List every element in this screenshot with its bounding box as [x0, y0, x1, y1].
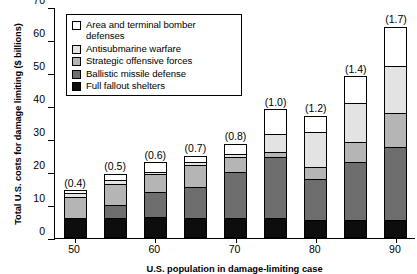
bar-segment: [64, 218, 87, 238]
bar-column[interactable]: (0.4): [64, 190, 87, 238]
x-tick-label: 60: [148, 244, 160, 255]
bar-segment: [184, 156, 207, 163]
bar-value-label: (1.7): [385, 14, 407, 25]
chart-legend: Area and terminal bomber defensesAntisub…: [66, 14, 242, 96]
bar-segment: [144, 174, 167, 192]
bar-segment: [384, 147, 407, 220]
bar-segment: [144, 217, 167, 238]
bar-segment: [184, 187, 207, 218]
bar-column[interactable]: (1.4): [344, 76, 367, 238]
legend-swatch-icon: [72, 70, 81, 79]
legend-item[interactable]: Strategic offensive forces: [72, 55, 236, 66]
bar-segment: [224, 144, 247, 154]
bar-value-label: (0.7): [185, 143, 207, 154]
legend-item-label: Area and terminal bomber defenses: [86, 19, 236, 42]
bar-segment: [224, 172, 247, 218]
bar-value-label: (0.8): [225, 131, 247, 142]
y-tick: [48, 206, 55, 207]
legend-item-label: Full fallout shelters: [86, 80, 165, 91]
bar-value-label: (1.0): [265, 97, 287, 108]
legend-item[interactable]: Ballistic missile defense: [72, 68, 236, 79]
y-tick: [48, 74, 55, 75]
bar-segment: [104, 184, 127, 205]
bar-segment: [264, 157, 287, 218]
y-tick: [48, 173, 55, 174]
y-tick-label: 50: [33, 61, 45, 72]
bar-column[interactable]: (1.2): [304, 116, 327, 238]
x-tick-label: 70: [229, 244, 241, 255]
bar-segment: [144, 192, 167, 217]
legend-item[interactable]: Full fallout shelters: [72, 80, 236, 91]
y-tick-label: 0: [39, 226, 45, 237]
x-tick-label: 90: [389, 244, 401, 255]
bar-segment: [304, 220, 327, 238]
bar-segment: [384, 66, 407, 112]
y-tick: [48, 239, 55, 240]
bar-segment: [344, 220, 367, 238]
bar-segment: [304, 179, 327, 220]
bar-segment: [304, 132, 327, 167]
bar-segment: [344, 142, 367, 162]
y-tick-label: 70: [33, 0, 45, 5]
bar-segment: [104, 205, 127, 218]
bar-segment: [264, 134, 287, 152]
bar-column[interactable]: (0.6): [144, 162, 167, 238]
bar-segment: [64, 197, 87, 218]
bar-segment: [224, 218, 247, 238]
bar-segment: [224, 157, 247, 172]
x-tick-label: 80: [309, 244, 321, 255]
bar-value-label: (0.6): [144, 150, 166, 161]
bar-segment: [304, 167, 327, 179]
y-tick-label: 30: [33, 127, 45, 138]
y-tick: [48, 41, 55, 42]
bar-column[interactable]: (1.0): [264, 109, 287, 238]
y-tick-label: 10: [33, 193, 45, 204]
bar-segment: [384, 220, 407, 238]
y-axis-tick-labels: 010203040506070: [0, 0, 54, 231]
bar-segment: [144, 162, 167, 172]
bar-segment: [344, 162, 367, 220]
bar-segment: [264, 218, 287, 238]
bar-value-label: (1.2): [305, 103, 327, 114]
bar-segment: [384, 27, 407, 67]
bar-column[interactable]: (1.7): [384, 27, 407, 238]
bar-column[interactable]: (0.8): [224, 144, 247, 238]
y-tick: [48, 8, 55, 9]
bar-value-label: (0.4): [64, 178, 86, 189]
legend-item[interactable]: Area and terminal bomber defenses: [72, 19, 236, 42]
bar-segment: [264, 109, 287, 134]
bar-segment: [184, 218, 207, 238]
bar-segment: [304, 116, 327, 133]
bar-value-label: (1.4): [345, 64, 367, 75]
bar-segment: [344, 76, 367, 102]
bar-segment: [344, 103, 367, 143]
x-axis-title: U.S. population in damage-limiting case: [54, 264, 415, 274]
legend-item-label: Antisubmarine warfare: [86, 43, 181, 54]
bar-value-label: (0.5): [104, 161, 126, 172]
stacked-bar-chart: Total U.S. costs for damage limiting ($ …: [0, 0, 417, 274]
legend-item-label: Strategic offensive forces: [86, 55, 192, 66]
legend-item-label: Ballistic missile defense: [86, 68, 186, 79]
legend-swatch-icon: [72, 21, 81, 30]
bar-segment: [104, 174, 127, 181]
y-tick: [48, 140, 55, 141]
bar-column[interactable]: (0.5): [104, 174, 127, 238]
y-tick-label: 40: [33, 94, 45, 105]
y-tick: [48, 107, 55, 108]
bar-column[interactable]: (0.7): [184, 156, 207, 238]
y-tick-label: 60: [33, 28, 45, 39]
bar-segment: [184, 165, 207, 186]
legend-item[interactable]: Antisubmarine warfare: [72, 43, 236, 54]
legend-swatch-icon: [72, 57, 81, 66]
legend-swatch-icon: [72, 82, 81, 91]
bar-segment: [104, 218, 127, 238]
bar-segment: [384, 113, 407, 148]
legend-swatch-icon: [72, 45, 81, 54]
y-tick-label: 20: [33, 160, 45, 171]
x-tick-label: 50: [68, 244, 80, 255]
